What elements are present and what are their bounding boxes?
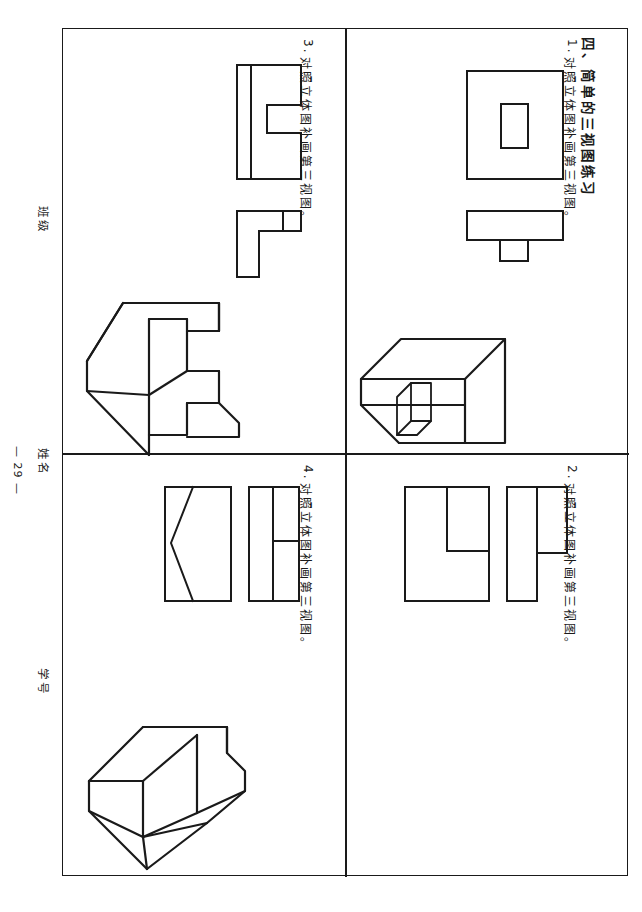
exercise-2-isometric-solid (347, 325, 517, 455)
page-number: — 29 — (11, 446, 24, 495)
exercise-2-orthographic-views (399, 479, 575, 609)
exercise-3-isometric-solid (69, 285, 249, 455)
exercise-1-orthographic-views (461, 59, 571, 279)
margin-label-name: 姓名 (36, 448, 52, 475)
exercise-3-orthographic-views (223, 59, 313, 289)
exercise-1-number: 1. (565, 39, 579, 54)
exercise-4-orthographic-views (159, 479, 305, 609)
exercise-4-isometric-solid (77, 719, 247, 869)
exercise-3-number: 3. (301, 39, 315, 54)
workbook-page: 班级 姓名 学号 — 29 — 四、简单的三视图练习 1. 对照立体图补画第三视… (0, 0, 642, 912)
exercise-sheet-frame: 四、简单的三视图练习 1. 对照立体图补画第三视图。 2. 对照立体图补画第三视… (62, 28, 628, 876)
margin-label-class: 班级 (36, 206, 52, 233)
section-heading: 四、简单的三视图练习 (579, 37, 599, 197)
margin-label-student-id: 学号 (36, 668, 52, 695)
